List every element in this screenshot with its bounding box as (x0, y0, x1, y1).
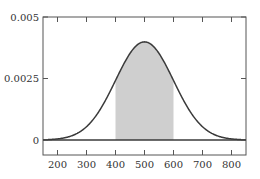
x-tick-label: 300 (77, 159, 96, 170)
x-tick-label: 700 (193, 159, 212, 170)
y-tick-label: 0.0025 (4, 73, 39, 84)
x-tick-label: 500 (135, 159, 154, 170)
x-tick-label: 400 (106, 159, 125, 170)
y-tick-label: 0.005 (10, 12, 39, 23)
normal-distribution-chart: 200300400500600700800 00.00250.005 (0, 0, 260, 179)
y-tick-label: 0 (33, 135, 39, 146)
x-tick-label: 600 (164, 159, 183, 170)
shaded-area (116, 42, 174, 140)
x-tick-label: 200 (48, 159, 67, 170)
x-tick-label: 800 (222, 159, 241, 170)
